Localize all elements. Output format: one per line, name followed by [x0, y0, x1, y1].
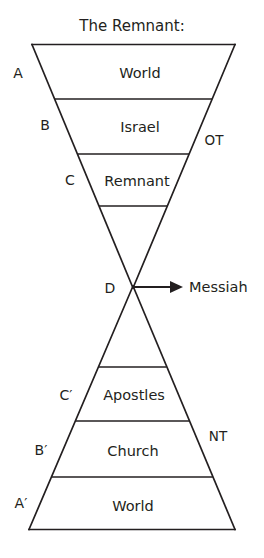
- side-label-a: A: [13, 65, 23, 81]
- lower-triangle-outline: [29, 286, 235, 530]
- arrow-head: [170, 281, 183, 293]
- testament-label-ot: OT: [205, 132, 225, 148]
- band-label-lower-4: World: [112, 498, 154, 514]
- upper-triangle-outline: [32, 45, 235, 289]
- lower-left-slant: [29, 286, 133, 530]
- band-label-upper-3: Remnant: [104, 173, 170, 189]
- side-label-c-prime: C′: [60, 387, 73, 403]
- upper-left-slant: [32, 45, 133, 289]
- side-label-b: B: [40, 117, 50, 133]
- lower-dividers: [52, 367, 213, 477]
- page-title: The Remnant:: [78, 17, 184, 35]
- side-label-c: C: [65, 172, 75, 188]
- testament-label-nt: NT: [209, 428, 228, 444]
- messiah-label: Messiah: [189, 279, 248, 295]
- focal-point-label-d: D: [105, 280, 116, 296]
- remnant-diagram: The Remnant: World Israel Remnant A B C: [0, 0, 264, 558]
- band-label-lower-2: Apostles: [103, 387, 165, 403]
- side-label-b-prime: B′: [35, 442, 48, 458]
- band-label-upper-1: World: [119, 65, 161, 81]
- upper-right-slant: [133, 45, 235, 289]
- upper-dividers: [55, 99, 212, 206]
- messiah-arrow-icon: [133, 281, 183, 293]
- band-label-upper-2: Israel: [120, 119, 160, 135]
- side-label-a-prime: A′: [15, 495, 28, 511]
- lower-right-slant: [133, 286, 235, 530]
- band-label-lower-3: Church: [107, 443, 158, 459]
- remnant-diagram-svg: The Remnant: World Israel Remnant A B C: [0, 0, 264, 558]
